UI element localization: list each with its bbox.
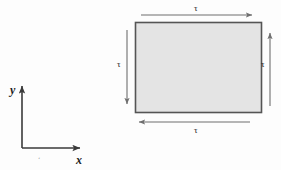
stress-element [136, 23, 262, 113]
stress-element-body [136, 23, 262, 113]
y-axis-label: y [10, 84, 15, 96]
figure-canvas [0, 0, 281, 170]
bottom-shear-label: τ [194, 126, 198, 135]
right-shear-label: τ [261, 60, 265, 69]
top-shear-label: τ [194, 4, 198, 13]
stray-speck-mark: ‘ [38, 156, 40, 164]
x-axis-label: x [76, 154, 82, 166]
shear-stress-figure: τ τ τ τ y x ‘ [0, 0, 281, 170]
coordinate-axes [22, 86, 80, 148]
left-shear-label: τ [117, 60, 121, 69]
